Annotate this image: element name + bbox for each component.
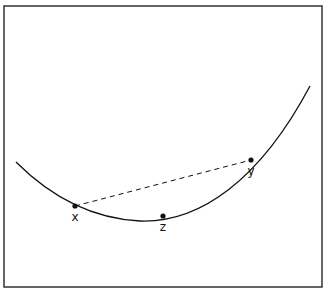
points-group: xzy [71, 157, 254, 234]
point-y-marker [248, 157, 253, 162]
chord-dashed-line [75, 160, 251, 206]
diagram-frame [4, 6, 322, 287]
convex-curve [16, 86, 310, 221]
convexity-diagram: xzy [0, 0, 328, 291]
point-y-label: y [247, 164, 254, 178]
point-z-marker [160, 213, 165, 218]
point-z-label: z [160, 220, 166, 234]
point-x-label: x [71, 210, 78, 224]
point-x-marker [72, 203, 77, 208]
